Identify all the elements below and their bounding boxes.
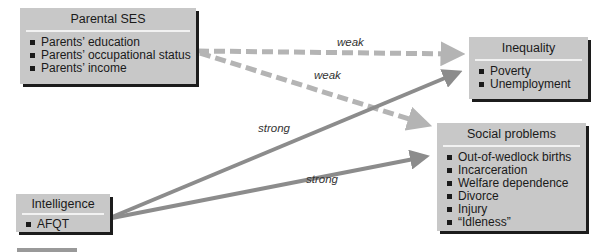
divider bbox=[443, 145, 580, 147]
node-inequality: Inequality Poverty Unemployment bbox=[469, 37, 588, 99]
node-parental-ses: Parental SES Parents’ education Parents’… bbox=[20, 8, 196, 84]
edge-intel-inequality bbox=[112, 73, 457, 217]
edge-label-weak-1: weak bbox=[337, 36, 364, 48]
divider bbox=[475, 59, 582, 61]
node-social-problems: Social problems Out-of-wedlock births In… bbox=[437, 123, 586, 231]
list-item: Parents’ income bbox=[30, 62, 196, 75]
list-item: AFQT bbox=[26, 218, 110, 231]
list-item: Injury bbox=[447, 203, 586, 216]
divider bbox=[26, 30, 190, 32]
list-item: Divorce bbox=[447, 190, 586, 203]
edge-label-weak-2: weak bbox=[314, 69, 341, 81]
divider bbox=[22, 213, 104, 215]
cropped-caption bbox=[17, 247, 77, 252]
edge-intel-social bbox=[112, 157, 424, 218]
list-item: Out-of-wedlock births bbox=[447, 151, 586, 164]
list-item: Unemployment bbox=[479, 78, 588, 91]
list-item: Parents’ occupational status bbox=[30, 49, 196, 62]
node-title: Parental SES bbox=[20, 8, 196, 29]
node-title: Intelligence bbox=[16, 194, 110, 212]
list-item: “Idleness” bbox=[447, 216, 586, 229]
edge-ses-social bbox=[200, 53, 425, 124]
list-item: Welfare dependence bbox=[447, 177, 586, 190]
edge-label-strong-1: strong bbox=[258, 122, 290, 134]
node-intelligence: Intelligence AFQT bbox=[16, 194, 110, 232]
node-title: Social problems bbox=[437, 123, 586, 144]
list-item: Poverty bbox=[479, 65, 588, 78]
node-title: Inequality bbox=[469, 37, 588, 58]
edge-label-strong-2: strong bbox=[306, 173, 338, 185]
list-item: Incarceration bbox=[447, 164, 586, 177]
edge-ses-inequality bbox=[198, 51, 458, 54]
list-item: Parents’ education bbox=[30, 36, 196, 49]
